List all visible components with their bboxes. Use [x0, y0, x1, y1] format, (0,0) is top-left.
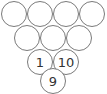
empty-circle	[14, 25, 40, 51]
empty-circle	[53, 1, 79, 27]
empty-circle	[79, 1, 105, 27]
circle-9: 9	[40, 68, 66, 94]
empty-circle	[1, 1, 27, 27]
empty-circle	[40, 25, 66, 51]
empty-circle	[27, 1, 53, 27]
empty-circle	[66, 25, 92, 51]
